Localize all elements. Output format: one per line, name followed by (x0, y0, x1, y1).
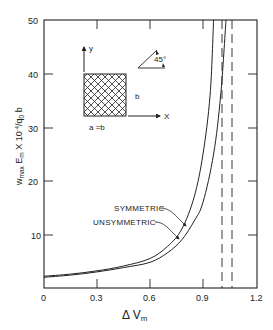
x-tick-1-2: 1.2 (250, 293, 263, 303)
y-tick-40: 40 (28, 70, 38, 80)
x-ticks-bottom (97, 279, 203, 288)
y-tick-10: 10 (31, 231, 41, 241)
x-tick-0-6: 0.6 (143, 293, 156, 303)
y-ticks-right (248, 74, 257, 235)
inset-y-label: y (89, 44, 93, 53)
chart-canvas: 0 0.3 0.6 0.9 1.2 50 40 30 20 10 Δ Vm wm… (0, 0, 273, 330)
y-tick-20: 20 (28, 177, 38, 187)
inset-ab-label: a =b (89, 123, 105, 132)
curve-unsymmetric (44, 20, 226, 277)
x-ticks-top (97, 20, 203, 29)
y-tick-30: 30 (28, 124, 38, 134)
label-unsymmetric: UNSYMMETRIC (93, 218, 156, 227)
y-axis-title: wmax Em X 10-4/q0 b (14, 107, 25, 186)
plot-frame (44, 20, 257, 288)
leader-unsymmetric (155, 222, 179, 239)
x-tick-0-9: 0.9 (196, 293, 209, 303)
curve-symmetric (44, 20, 214, 276)
x-tick-0: 0 (41, 293, 46, 303)
y-ticks-left (44, 74, 53, 235)
label-symmetric: SYMMETRIC (114, 204, 165, 213)
y-tick-50: 50 (28, 16, 38, 26)
x-axis-title: Δ Vm (122, 308, 148, 323)
inset-diagram: y X b a =b 45° (84, 44, 170, 132)
inset-b-label: b (135, 92, 140, 101)
inset-angle-label: 45° (154, 55, 166, 64)
x-tick-0-3: 0.3 (90, 293, 103, 303)
inset-x-label: X (164, 112, 170, 121)
plate-square (84, 74, 126, 116)
